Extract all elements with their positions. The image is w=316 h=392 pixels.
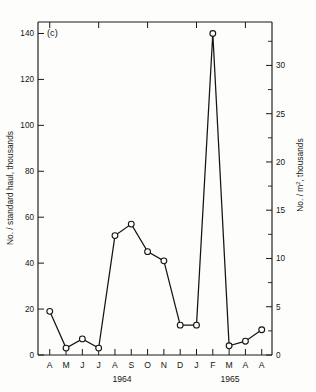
x-tick-label-O-6: O (144, 360, 151, 370)
x-axis-tick-labels: AMJJASONDJFMAA (47, 360, 265, 370)
x-tick-label-D-8: D (177, 360, 183, 370)
x-tick-label-J-2: J (80, 360, 84, 370)
right-axis-title-tail: , thousands (295, 138, 305, 181)
x-tick-label-A-13: A (259, 360, 265, 370)
right-tick-label-25: 25 (276, 110, 286, 119)
data-point-A-1964-19 (47, 308, 53, 314)
data-point-J-1965-13 (194, 322, 200, 328)
x-tick-label-A-4: A (112, 360, 118, 370)
left-tick-label-140: 140 (20, 29, 34, 38)
panel-label: (c) (47, 28, 58, 38)
right-tick-label-30: 30 (276, 61, 286, 70)
left-axis-title: No. / standard haul, thousands (5, 131, 15, 245)
x-tick-label-S-5: S (128, 360, 134, 370)
data-point-O-1964-45 (145, 249, 151, 255)
x-tick-label-F-10: F (210, 360, 215, 370)
right-tick-label-20: 20 (276, 158, 286, 167)
data-point-A2-1965-11 (259, 327, 265, 333)
left-tick-label-100: 100 (20, 121, 34, 130)
left-axis-tick-labels: 020406080100120140 (20, 29, 34, 360)
left-tick-label-20: 20 (25, 305, 35, 314)
data-point-markers (47, 31, 265, 351)
x-axis-year-label-1964: 1964 (112, 374, 131, 384)
data-point-M-1964-3 (63, 345, 69, 351)
right-axis-tick-labels: 051015202530 (276, 61, 286, 360)
x-axis-ticks (50, 349, 262, 355)
left-tick-label-60: 60 (25, 213, 35, 222)
left-axis-ticks (38, 33, 44, 355)
x-tick-label-J-3: J (97, 360, 101, 370)
right-tick-label-10: 10 (276, 254, 286, 263)
x-axis-year-label-1965: 1965 (220, 374, 239, 384)
left-tick-label-80: 80 (25, 167, 35, 176)
right-tick-label-15: 15 (276, 206, 286, 215)
right-axis-title: No. / m2, thousands (295, 138, 305, 211)
left-tick-label-120: 120 (20, 75, 34, 84)
data-point-A-1965-6 (243, 338, 249, 344)
x-tick-label-M-1: M (62, 360, 69, 370)
x-tick-label-J-9: J (194, 360, 198, 370)
line-chart-svg: 020406080100120140 051015202530 AMJJASON… (0, 0, 316, 392)
top-axis-ticks (50, 22, 246, 28)
right-tick-label-0: 0 (276, 351, 281, 360)
right-axis-ticks (266, 65, 272, 355)
data-point-M-1965-4 (226, 343, 232, 349)
x-tick-label-M-11: M (226, 360, 233, 370)
data-point-D-1964-13 (177, 322, 183, 328)
data-point-F-1965-140 (210, 31, 216, 37)
data-point-S-1964-57 (128, 221, 134, 227)
data-point-A-1964-52 (112, 233, 118, 239)
figure-panel-c: 020406080100120140 051015202530 AMJJASON… (0, 0, 316, 392)
x-tick-label-A-12: A (243, 360, 249, 370)
right-axis-minor-ticks (268, 41, 272, 331)
right-axis-title-main: No. / m (295, 185, 305, 212)
data-point-J-1964-3 (96, 345, 102, 351)
plot-frame (38, 22, 272, 355)
left-tick-label-40: 40 (25, 259, 35, 268)
data-point-J-1964-7 (79, 336, 85, 342)
x-tick-label-A-0: A (47, 360, 53, 370)
x-tick-label-N-7: N (161, 360, 167, 370)
right-tick-label-5: 5 (276, 303, 281, 312)
left-tick-label-0: 0 (29, 351, 34, 360)
svg-text:No. / m2, thousands: No. / m2, thousands (295, 138, 305, 211)
data-line (50, 33, 262, 348)
data-point-N-1964-41 (161, 258, 167, 264)
